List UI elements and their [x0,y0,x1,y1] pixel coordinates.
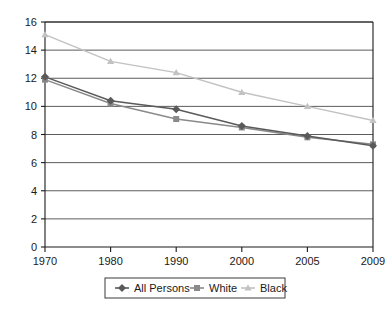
data-point-marker-triangle [41,31,48,37]
y-axis-tick-label: 2 [31,213,37,225]
y-axis-tick-label: 8 [31,129,37,141]
x-axis-tick-label: 2005 [295,255,319,267]
x-axis-tick-label: 1990 [164,255,188,267]
data-point-marker-square [173,116,179,122]
legend-item-label: All Persons [134,282,190,294]
chart-canvas: 0246810121416 197019801990200020052009 A… [0,0,390,311]
x-axis-tick-label: 2000 [230,255,254,267]
series-line [45,35,373,121]
chart-legend: All PersonsWhiteBlack [105,278,287,298]
y-axis-tick-label: 16 [25,16,37,28]
y-axis-tick-label: 6 [31,157,37,169]
x-axis-ticks: 197019801990200020052009 [33,247,385,267]
y-axis-tick-label: 0 [31,241,37,253]
series-white [42,77,376,148]
y-axis-tick-label: 10 [25,100,37,112]
x-axis-tick-label: 2009 [361,255,385,267]
y-axis-ticks: 0246810121416 [25,16,45,253]
line-chart: 0246810121416 197019801990200020052009 A… [0,0,390,311]
x-axis-tick-label: 1980 [98,255,122,267]
y-axis-tick-label: 12 [25,72,37,84]
legend-item-label: Black [260,282,287,294]
y-axis-tick-label: 14 [25,44,37,56]
series-black [41,31,376,123]
gridlines [45,22,373,219]
data-series [41,31,377,150]
series-all-persons [41,73,377,150]
legend-item-label: White [209,282,237,294]
data-point-marker-square [194,285,200,291]
x-axis-tick-label: 1970 [33,255,57,267]
series-line [45,77,373,146]
y-axis-tick-label: 4 [31,185,37,197]
